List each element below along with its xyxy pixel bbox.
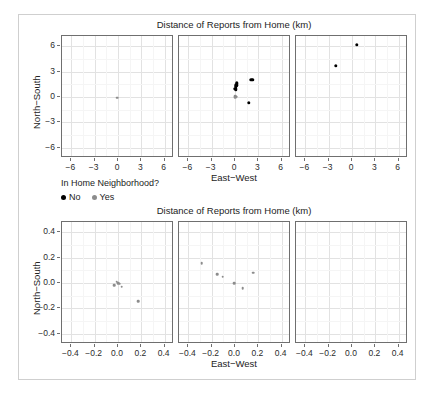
gridline-horizontal-minor xyxy=(62,296,172,297)
gridline-vertical xyxy=(165,36,166,156)
x-tick-label: −3 xyxy=(89,162,99,172)
gridline-horizontal xyxy=(62,72,172,73)
y-tick-label: 6 xyxy=(31,40,55,50)
legend-label-no: No xyxy=(69,192,81,202)
gridline-horizontal xyxy=(62,232,172,233)
y-tick-label: −0.4 xyxy=(31,328,55,338)
gridline-vertical xyxy=(375,36,376,156)
x-tick-mark xyxy=(187,344,188,347)
legend-item-yes[interactable]: Yes xyxy=(92,192,115,202)
panel-bottom-2 xyxy=(295,221,407,343)
gridline-vertical xyxy=(95,222,96,342)
gridline-horizontal-minor xyxy=(62,135,172,136)
x-tick-label: 0.2 xyxy=(368,348,380,358)
gridline-vertical-minor xyxy=(223,36,224,156)
gridline-vertical-minor xyxy=(106,36,107,156)
x-tick-label: −0.4 xyxy=(179,348,196,358)
x-tick-label: −0.2 xyxy=(85,348,102,358)
gridline-horizontal-minor xyxy=(296,135,406,136)
x-tick-mark xyxy=(374,344,375,347)
gridline-horizontal xyxy=(296,232,406,233)
gridline-horizontal xyxy=(179,232,289,233)
gridline-horizontal xyxy=(179,46,289,47)
data-point xyxy=(334,64,337,67)
y-tick-label: −6 xyxy=(31,142,55,152)
x-tick-mark xyxy=(117,344,118,347)
panel-top-2 xyxy=(295,35,407,157)
y-tick-mark xyxy=(57,333,60,334)
legend-dot-yes-icon xyxy=(92,195,97,200)
x-tick-label: −3 xyxy=(206,162,216,172)
x-tick-mark xyxy=(234,158,235,161)
panel-top-1 xyxy=(178,35,290,157)
gridline-horizontal-minor xyxy=(296,245,406,246)
x-tick-label: 0.0 xyxy=(345,348,357,358)
gridline-vertical xyxy=(375,222,376,342)
gridline-vertical xyxy=(188,36,189,156)
data-point xyxy=(113,284,116,287)
chart-title-bottom: Distance of Reports from Home (km) xyxy=(61,205,407,216)
y-tick-mark xyxy=(57,71,60,72)
gridline-vertical-minor xyxy=(340,222,341,342)
data-point xyxy=(252,272,255,275)
gridline-horizontal xyxy=(62,308,172,309)
data-point xyxy=(116,97,119,100)
y-tick-mark xyxy=(57,147,60,148)
gridline-horizontal xyxy=(179,334,289,335)
x-tick-label: −0.2 xyxy=(319,348,336,358)
gridline-horizontal-minor xyxy=(296,110,406,111)
x-tick-label: −0.4 xyxy=(62,348,79,358)
gridline-horizontal xyxy=(62,46,172,47)
y-tick-label: −0.2 xyxy=(31,302,55,312)
gridline-horizontal-minor xyxy=(179,296,289,297)
x-tick-label: 0.2 xyxy=(251,348,263,358)
x-tick-label: 0.4 xyxy=(275,348,287,358)
gridline-vertical xyxy=(188,222,189,342)
gridline-vertical xyxy=(71,36,72,156)
x-tick-mark xyxy=(351,158,352,161)
x-tick-mark xyxy=(164,158,165,161)
gridline-vertical xyxy=(329,36,330,156)
x-tick-mark xyxy=(351,344,352,347)
x-tick-label: 0 xyxy=(115,162,120,172)
gridline-horizontal xyxy=(296,46,406,47)
gridline-horizontal-minor xyxy=(179,59,289,60)
legend-item-no[interactable]: No xyxy=(61,192,81,202)
x-tick-label: 3 xyxy=(255,162,260,172)
gridline-horizontal xyxy=(296,258,406,259)
gridline-horizontal xyxy=(296,283,406,284)
x-tick-mark xyxy=(398,344,399,347)
y-tick-mark xyxy=(57,96,60,97)
gridline-horizontal-minor xyxy=(179,245,289,246)
gridline-vertical-minor xyxy=(83,222,84,342)
gridline-horizontal xyxy=(179,258,289,259)
y-tick-label: 0.0 xyxy=(31,277,55,287)
gridline-horizontal xyxy=(179,148,289,149)
gridline-vertical xyxy=(141,222,142,342)
gridline-vertical-minor xyxy=(387,222,388,342)
y-tick-mark xyxy=(57,45,60,46)
figure-container: Distance of Reports from Home (km)North−… xyxy=(18,14,416,380)
gridline-vertical-minor xyxy=(200,36,201,156)
x-tick-mark xyxy=(328,344,329,347)
x-tick-label: 3 xyxy=(138,162,143,172)
x-tick-mark xyxy=(94,158,95,161)
gridline-horizontal-minor xyxy=(296,296,406,297)
gridline-horizontal-minor xyxy=(62,245,172,246)
chart-title-top: Distance of Reports from Home (km) xyxy=(61,19,407,30)
gridline-vertical-minor xyxy=(270,222,271,342)
x-tick-label: 0.0 xyxy=(111,348,123,358)
panel-top-0 xyxy=(61,35,173,157)
gridline-vertical-minor xyxy=(317,36,318,156)
x-tick-mark xyxy=(234,344,235,347)
gridline-vertical-minor xyxy=(247,222,248,342)
gridline-vertical-minor xyxy=(364,36,365,156)
gridline-vertical xyxy=(352,36,353,156)
gridline-vertical-minor xyxy=(317,222,318,342)
gridline-vertical-minor xyxy=(223,222,224,342)
data-point xyxy=(233,282,236,285)
x-tick-mark xyxy=(70,344,71,347)
y-tick-mark xyxy=(57,282,60,283)
x-tick-mark xyxy=(281,158,282,161)
gridline-vertical-minor xyxy=(130,222,131,342)
